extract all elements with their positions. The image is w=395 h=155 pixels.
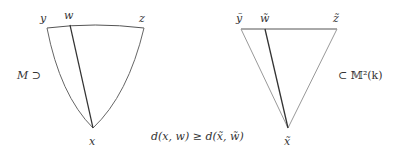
right-side-zx <box>288 29 337 128</box>
left-side-xz <box>47 25 144 28</box>
label-z: z <box>138 12 145 25</box>
inequality-text: d(x, w) ≥ d(x̃, w̃) <box>151 130 244 143</box>
left-side-yx <box>47 28 93 128</box>
label-w: w <box>64 9 74 22</box>
label-y: y <box>39 12 47 25</box>
label-x-tilde: x̃ <box>284 135 291 148</box>
right-side-yx <box>241 29 288 128</box>
left-side-zx <box>93 28 144 128</box>
right-segment-xw <box>265 29 288 128</box>
label-w-tilde: w̃ <box>260 12 270 25</box>
label-y-tilde: ỹ <box>235 12 243 25</box>
label-space-model: ⊂ 𝕄²(k) <box>338 69 383 82</box>
label-space-M: M ⊃ <box>16 69 41 82</box>
label-z-tilde: z̃ <box>332 12 339 25</box>
label-x: x <box>89 135 96 148</box>
left-segment-xw <box>70 25 93 128</box>
comparison-diagram: y w z x M ⊃ ỹ w̃ z̃ x̃ ⊂ 𝕄²(k) d(x, w) ≥… <box>0 0 395 155</box>
